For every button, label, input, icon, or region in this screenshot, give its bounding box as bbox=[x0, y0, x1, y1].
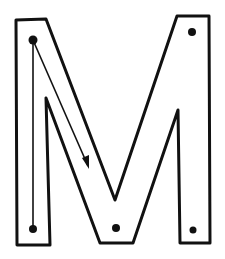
dot-bottom-middle bbox=[112, 224, 120, 232]
start-dot-top-left bbox=[29, 36, 38, 45]
dot-top-right bbox=[188, 28, 196, 36]
end-dot-bottom-left bbox=[29, 225, 37, 233]
dot-bottom-right bbox=[190, 227, 197, 234]
arrow-head-icon bbox=[82, 155, 89, 169]
letter-m-outline bbox=[16, 16, 210, 245]
letter-m-diagram bbox=[0, 0, 225, 259]
letter-m-svg bbox=[0, 0, 225, 259]
